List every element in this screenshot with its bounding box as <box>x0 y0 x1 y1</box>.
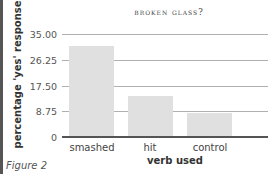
bar-smashed <box>69 46 114 137</box>
x-axis-line <box>62 136 268 138</box>
x-tick-hit: hit <box>120 142 180 153</box>
y-tick: 26.25 <box>17 55 57 66</box>
gridline-35 <box>62 34 268 35</box>
y-tick: 17.50 <box>17 81 57 92</box>
y-tick: 8.75 <box>17 106 57 117</box>
x-tick-smashed: smashed <box>62 142 122 153</box>
plot-area: 35.00 26.25 17.50 8.75 0 <box>62 34 268 137</box>
bar-control <box>187 113 232 137</box>
figure-caption: Figure 2 <box>6 160 47 171</box>
x-tick-control: control <box>180 142 240 153</box>
y-tick: 35.00 <box>17 29 57 40</box>
x-axis-label: verb used <box>125 155 225 166</box>
chart-title: BROKEN GLASS? <box>60 7 278 17</box>
bar-hit <box>128 96 173 137</box>
left-border <box>0 0 3 174</box>
y-tick: 0 <box>17 132 57 143</box>
